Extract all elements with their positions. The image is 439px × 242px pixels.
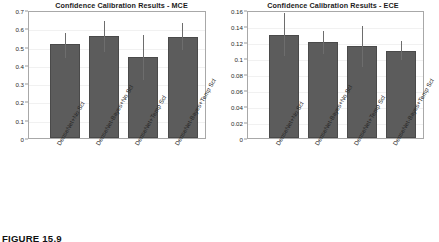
- error-bar: [323, 31, 324, 53]
- chart-ece: Confidence Calibration Results - ECE 0.1…: [215, 0, 431, 242]
- y-axis-tick-label: 0.4: [15, 62, 24, 69]
- y-axis-tick-label: 0.12: [231, 40, 243, 47]
- chart-mce-plot-area: [28, 11, 206, 139]
- chart-mce-x-labels: DenseNet+No SclDenseNet-Bayes+No SclDens…: [0, 141, 215, 242]
- chart-mce-y-axis: 0.70.60.50.40.30.20.10: [0, 11, 28, 139]
- error-bar: [143, 35, 144, 81]
- error-bar: [65, 33, 66, 58]
- y-axis-tick-label: 0.3: [15, 81, 24, 88]
- y-axis-tick-label: 0.02: [231, 120, 243, 127]
- y-axis-tick-label: 0.04: [231, 104, 243, 111]
- y-axis-tick-label: 0.1: [234, 56, 243, 63]
- y-axis-tick-label: 0.6: [15, 26, 24, 33]
- chart-ece-plot-area: [247, 11, 424, 139]
- error-bar: [401, 41, 402, 60]
- chart-mce-title: Confidence Calibration Results - MCE: [0, 1, 229, 10]
- bar: [168, 37, 198, 138]
- y-axis-tick-label: 0.16: [231, 8, 243, 15]
- figure-caption: FIGURE 15.9: [2, 233, 62, 242]
- y-axis-tick-label: 0.08: [231, 72, 243, 79]
- error-bar: [284, 13, 285, 57]
- chart-mce: Confidence Calibration Results - MCE 0.7…: [0, 0, 215, 242]
- y-axis-tick-label: 0.06: [231, 88, 243, 95]
- grid-line: [248, 28, 423, 29]
- y-axis-tick-label: 0.1: [15, 117, 24, 124]
- error-bar: [182, 23, 183, 50]
- error-bar: [104, 21, 105, 52]
- y-axis-tick-label: 0.5: [15, 44, 24, 51]
- chart-ece-y-axis: 0.160.140.120.10.080.060.040.020: [215, 11, 247, 139]
- chart-ece-x-labels: DenseNet+No SclDenseNet-Bayes+No SclDens…: [215, 141, 431, 242]
- chart-ece-title: Confidence Calibration Results - ECE: [215, 1, 439, 10]
- y-axis-tick-label: 0.7: [15, 8, 24, 15]
- grid-line: [29, 30, 205, 31]
- y-axis-tick-label: 0.2: [15, 99, 24, 106]
- y-axis-tick-label: 0.14: [231, 24, 243, 31]
- error-bar: [362, 26, 363, 68]
